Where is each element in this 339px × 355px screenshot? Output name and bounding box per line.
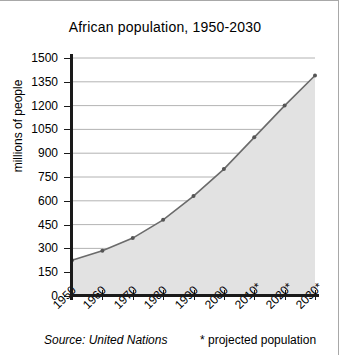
y-axis-line [70,54,73,300]
y-tick-label: 1200 [18,99,58,113]
data-point [192,194,196,198]
data-point [100,249,104,253]
plot-area [72,58,315,296]
y-tick-label: 750 [18,170,58,184]
x-axis-line [70,294,319,297]
y-tick-label: 1350 [18,75,58,89]
projection-footnote: * projected population [200,333,316,347]
data-point [252,135,256,139]
data-point [222,167,226,171]
y-tick-label: 1050 [18,122,58,136]
data-point [283,104,287,108]
chart-title: African population, 1950-2030 [0,19,330,35]
y-tick-label: 300 [18,241,58,255]
area-fill [72,75,315,296]
y-tick-label: 600 [18,194,58,208]
data-point [131,236,135,240]
chart-figure: African population, 1950-2030 millions o… [0,0,339,355]
y-tick-label: 900 [18,146,58,160]
data-point [161,218,165,222]
plot-frame [72,58,315,296]
y-tick-label: 450 [18,218,58,232]
y-tick-label: 1500 [18,51,58,65]
source-note: Source: United Nations [44,333,167,347]
x-tick-label: 1950 [50,283,79,312]
y-tick-label: 150 [18,265,58,279]
data-point [313,73,317,77]
